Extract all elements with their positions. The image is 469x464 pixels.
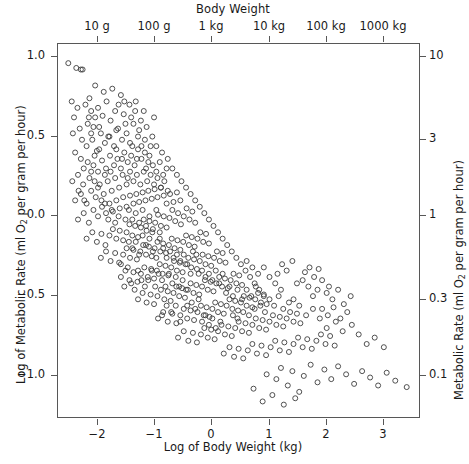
data-point (194, 340, 199, 345)
x-tick (269, 419, 270, 425)
data-point (315, 380, 320, 385)
data-point (229, 334, 234, 339)
data-point (144, 300, 149, 305)
data-point (178, 198, 183, 203)
data-point (340, 329, 345, 334)
data-point (92, 179, 97, 184)
data-point (157, 262, 162, 267)
top-tick-label: 1000 kg (348, 19, 418, 33)
data-point (108, 153, 113, 158)
data-point (145, 179, 150, 184)
data-point (205, 335, 210, 340)
data-point (302, 270, 307, 275)
data-point (142, 137, 147, 142)
data-point (164, 225, 169, 230)
data-point (148, 144, 153, 149)
data-point (320, 306, 325, 311)
top-axis-title: Body Weight (0, 2, 466, 16)
data-point (87, 176, 92, 181)
data-point (324, 290, 329, 295)
data-point (157, 230, 162, 235)
data-point (267, 319, 272, 324)
data-point (264, 353, 269, 358)
data-point (117, 185, 122, 190)
data-point (304, 313, 309, 318)
data-point (91, 207, 96, 212)
data-point (122, 99, 127, 104)
data-point (144, 252, 149, 257)
data-point (124, 131, 129, 136)
data-point (341, 302, 346, 307)
data-point (162, 179, 167, 184)
data-point (147, 219, 152, 224)
data-point (300, 345, 305, 350)
data-point (180, 270, 185, 275)
data-point (170, 166, 175, 171)
data-point (227, 345, 232, 350)
data-point (160, 313, 165, 318)
data-point (72, 115, 77, 120)
data-point (118, 93, 123, 98)
data-point (116, 102, 121, 107)
data-point (274, 322, 279, 327)
y-tick-label: 0.5 (0, 128, 45, 142)
data-point (301, 373, 306, 378)
data-point (284, 268, 289, 273)
data-point (148, 172, 153, 177)
data-point (253, 316, 258, 321)
data-point (264, 302, 269, 307)
data-point (349, 322, 354, 327)
data-point (257, 326, 262, 331)
data-point (126, 239, 131, 244)
data-point (175, 238, 180, 243)
data-point (193, 220, 198, 225)
x-tick-label: 0 (191, 427, 231, 441)
data-point (86, 220, 91, 225)
data-point (117, 228, 122, 233)
data-point (278, 365, 283, 370)
data-point (218, 319, 223, 324)
data-point (204, 231, 209, 236)
x-tick (326, 419, 327, 425)
data-point (348, 294, 353, 299)
data-point (140, 190, 145, 195)
data-point (113, 220, 118, 225)
y-tick-label: 1.0 (0, 48, 45, 62)
data-point (131, 121, 136, 126)
data-point (277, 348, 282, 353)
data-point (291, 342, 296, 347)
data-point (290, 369, 295, 374)
data-point (178, 247, 183, 252)
data-point (176, 211, 181, 216)
data-point (144, 223, 149, 228)
data-point (101, 192, 106, 197)
data-point (240, 329, 245, 334)
data-point (246, 313, 251, 318)
data-point (122, 150, 127, 155)
data-point (124, 182, 129, 187)
data-point (190, 330, 195, 335)
data-point (211, 223, 216, 228)
data-point (220, 284, 225, 289)
data-point (161, 246, 166, 251)
data-point (131, 179, 136, 184)
data-point (155, 176, 160, 181)
data-point (190, 209, 195, 214)
data-point (286, 349, 291, 354)
data-point (121, 238, 126, 243)
data-point (258, 303, 263, 308)
data-point (201, 239, 206, 244)
data-point (173, 303, 178, 308)
data-point (170, 207, 175, 212)
data-point (281, 306, 286, 311)
top-tick (211, 36, 212, 42)
data-point (144, 228, 149, 233)
data-point (101, 89, 106, 94)
data-point (205, 287, 210, 292)
data-point (267, 274, 272, 279)
x-tick-label: 3 (363, 427, 403, 441)
x-tick-label: −2 (77, 427, 117, 441)
right-tick-label: 1 (429, 207, 469, 221)
right-tick-label: 10 (429, 48, 469, 62)
